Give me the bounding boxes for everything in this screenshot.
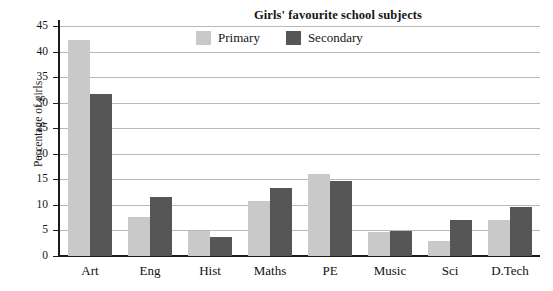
- x-tick-label-music: Music: [360, 263, 420, 279]
- x-tick-label-hist: Hist: [180, 263, 240, 279]
- x-tick-label-pe: PE: [300, 263, 360, 279]
- x-axis-category-labels: ArtEngHistMathsPEMusicSciD.Tech: [0, 0, 553, 291]
- x-tick-label-dtech: D.Tech: [480, 263, 540, 279]
- x-tick-label-maths: Maths: [240, 263, 300, 279]
- bar-chart: Girls' favourite school subjects Primary…: [0, 0, 553, 291]
- x-tick-label-sci: Sci: [420, 263, 480, 279]
- x-tick-label-eng: Eng: [120, 263, 180, 279]
- x-tick-label-art: Art: [60, 263, 120, 279]
